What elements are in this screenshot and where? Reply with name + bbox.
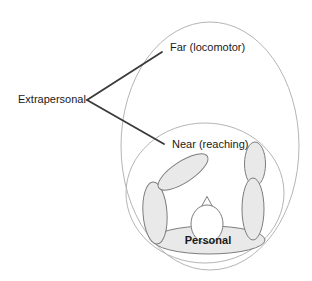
extrapersonal-label: Extrapersonal — [18, 93, 86, 106]
near-zone-label: Near (reaching) — [172, 138, 248, 151]
connector-line-to-far — [87, 52, 162, 100]
left-upper-arm — [141, 181, 169, 245]
right-upper-arm — [242, 178, 264, 240]
diagram-canvas — [0, 0, 312, 281]
spatial-zones-diagram: Far (locomotor) Near (reaching) Extraper… — [0, 0, 312, 281]
left-forearm — [153, 147, 213, 196]
far-zone-label: Far (locomotor) — [170, 41, 245, 54]
personal-zone-label: Personal — [185, 234, 231, 247]
